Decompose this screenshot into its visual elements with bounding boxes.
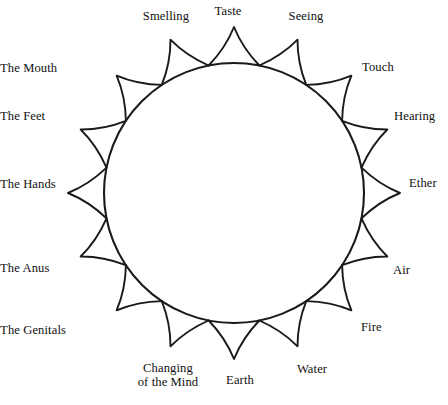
wheel-label-smelling: Smelling bbox=[106, 10, 226, 24]
wheel-label-air: Air bbox=[393, 264, 410, 278]
label-layer: TasteSeeingTouchHearingEtherAirFireWater… bbox=[0, 0, 448, 405]
label-line: Seeing bbox=[246, 10, 366, 24]
label-line: The Mouth bbox=[0, 62, 38, 76]
wheel-label-the-mouth: The Mouth bbox=[0, 62, 38, 76]
wheel-label-the-feet: The Feet bbox=[0, 110, 22, 124]
wheel-label-touch: Touch bbox=[362, 61, 394, 75]
wheel-label-the-hands: The Hands bbox=[0, 178, 5, 192]
label-line: The Genitals bbox=[0, 324, 66, 338]
label-line: of the Mind bbox=[108, 376, 228, 390]
wheel-diagram: TasteSeeingTouchHearingEtherAirFireWater… bbox=[0, 0, 448, 405]
wheel-label-the-genitals: The Genitals bbox=[0, 324, 66, 338]
label-line: The Hands bbox=[0, 178, 5, 192]
label-line: Changing bbox=[108, 362, 228, 376]
wheel-label-seeing: Seeing bbox=[246, 10, 366, 24]
label-line: Smelling bbox=[106, 10, 226, 24]
label-line: Ether bbox=[409, 177, 437, 191]
label-line: Fire bbox=[361, 321, 382, 335]
label-line: The Feet bbox=[0, 110, 22, 124]
wheel-label-the-anus: The Anus bbox=[0, 262, 32, 276]
caption-strip bbox=[0, 398, 448, 405]
label-line: Air bbox=[393, 264, 410, 278]
wheel-label-changing-of-the-mind: Changingof the Mind bbox=[108, 362, 228, 389]
wheel-label-hearing: Hearing bbox=[394, 110, 435, 124]
label-line: Hearing bbox=[394, 110, 435, 124]
wheel-label-fire: Fire bbox=[361, 321, 382, 335]
wheel-label-ether: Ether bbox=[409, 177, 437, 191]
label-line: Touch bbox=[362, 61, 394, 75]
label-line: The Anus bbox=[0, 262, 32, 276]
